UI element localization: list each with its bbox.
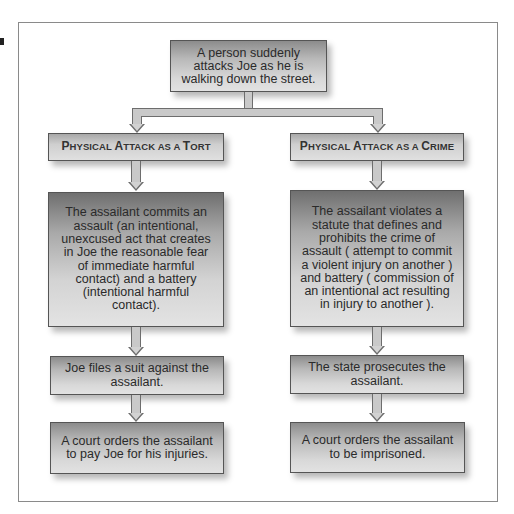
crime-arrow-2-shaft — [372, 327, 382, 346]
crime-step2-box: A court orders the assailant to be impri… — [290, 422, 465, 473]
arrow-down-icon — [370, 124, 386, 133]
tort-step2-box: A court orders the assailant to pay Joe … — [50, 422, 224, 474]
crime-arrow-1-shaft — [372, 161, 382, 181]
tort-description-text: The assailant commits an assault (an int… — [59, 206, 213, 312]
arrow-down-icon — [128, 347, 144, 356]
arrow-down-icon — [369, 413, 385, 422]
crime-description-box: The assailant violates a statute that de… — [290, 190, 464, 327]
crime-step2-text: A court orders the assailant to be impri… — [297, 434, 458, 461]
tort-step1-box: Joe files a suit against the assailant. — [50, 356, 224, 395]
tort-description-box: The assailant commits an assault (an int… — [48, 192, 224, 327]
tort-arrow-2-shaft — [131, 327, 141, 347]
tort-header-box: PHYSICAL ATTACK AS A TORT — [48, 133, 224, 161]
tort-step1-text: Joe files a suit against the assailant. — [57, 362, 217, 389]
tort-header-title: PHYSICAL ATTACK AS A TORT — [61, 140, 210, 154]
arrow-down-icon — [369, 346, 385, 355]
arrow-down-icon — [129, 124, 145, 133]
crime-step1-box: The state prosecutes the assailant. — [290, 355, 464, 394]
crime-header-title: PHYSICAL ATTACK AS A CRIME — [300, 140, 454, 154]
crime-step1-text: The state prosecutes the assailant. — [297, 361, 457, 388]
tort-step2-text: A court orders the assailant to pay Joe … — [57, 435, 217, 462]
arrow-down-icon — [128, 413, 144, 422]
crime-arrow-3-shaft — [372, 394, 382, 413]
top-event-text: A person suddenly attacks Joe as he is w… — [179, 47, 318, 86]
tort-arrow-3-shaft — [131, 395, 141, 413]
crime-description-text: The assailant violates a statute that de… — [299, 205, 455, 311]
top-event-box: A person suddenly attacks Joe as he is w… — [170, 40, 327, 92]
arrow-down-icon — [128, 182, 144, 191]
crime-header-box: PHYSICAL ATTACK AS A CRIME — [290, 133, 464, 161]
cropped-text-fragment — [0, 38, 4, 45]
arrow-down-icon — [369, 181, 385, 190]
tort-arrow-1-shaft — [131, 161, 141, 182]
connector-bar — [132, 108, 383, 117]
